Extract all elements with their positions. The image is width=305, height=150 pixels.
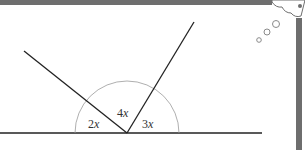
- frame-top-border: [0, 0, 272, 5]
- right-ray: [127, 22, 194, 133]
- angle-diagram: 2x 4x 3x: [0, 0, 305, 150]
- left-ray: [24, 51, 127, 133]
- angle-label-middle: 4x: [117, 106, 129, 120]
- angle-label-right: 3x: [142, 117, 154, 131]
- frame-right-border: [296, 18, 302, 150]
- angle-label-left: 2x: [88, 117, 100, 131]
